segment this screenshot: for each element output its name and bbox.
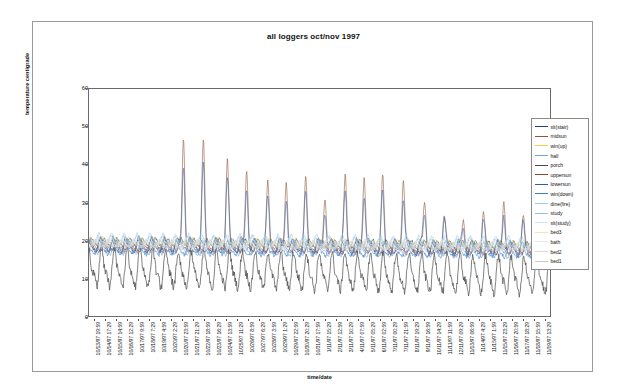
legend-color-swatch xyxy=(535,222,548,223)
x-tick-mark xyxy=(424,319,425,321)
x-tick-mark xyxy=(490,319,491,321)
x-tick-label: 11/18/97 15:59 xyxy=(536,322,541,355)
legend-item-hall[interactable]: hall xyxy=(534,151,586,161)
x-tick-label: 10/27/97 6:29 xyxy=(261,322,266,353)
x-tick-label: 10/31/97 17:59 xyxy=(316,322,321,355)
x-tick-mark xyxy=(292,319,293,321)
legend-item-midsun[interactable]: midsun xyxy=(534,132,586,142)
x-tick-label: 3/11/97 10:29 xyxy=(349,322,354,352)
legend-label: study xyxy=(551,210,563,216)
legend-item-uppersun[interactable]: uppersun xyxy=(534,170,586,180)
legend-color-swatch xyxy=(535,241,548,242)
x-tick-label: 10/25/97 11:29 xyxy=(239,322,244,355)
x-tick-mark xyxy=(325,319,326,321)
legend-label: midsun xyxy=(551,133,567,139)
legend-label: bed2 xyxy=(551,249,562,255)
x-tick-label: 1/11/97 15:29 xyxy=(327,322,332,352)
x-tick-mark xyxy=(116,319,117,321)
x-tick-label: 10/18/97 7:29 xyxy=(151,322,156,353)
legend-label: hall xyxy=(551,153,559,159)
x-tick-mark xyxy=(237,319,238,321)
legend-item-bed1[interactable]: bed1 xyxy=(534,256,586,266)
x-tick-label: 12/11/97 09:29 xyxy=(459,322,464,355)
x-tick-mark xyxy=(94,319,95,321)
x-tick-mark xyxy=(347,319,348,321)
legend-label: sit(stair) xyxy=(551,124,569,130)
legend-item-bed3[interactable]: bed3 xyxy=(534,228,586,238)
x-tick-mark xyxy=(303,319,304,321)
x-tick-label: 10/11/97 14:29 xyxy=(437,322,442,355)
legend-label: lowersun xyxy=(551,181,571,187)
x-tick-mark xyxy=(281,319,282,321)
x-tick-label: 7/11/97 00:29 xyxy=(393,322,398,352)
y-tick-label: 10 xyxy=(54,276,88,282)
legend-color-swatch xyxy=(535,213,548,214)
legend-item-win-up-[interactable]: win(up) xyxy=(534,141,586,151)
legend-color-swatch xyxy=(535,174,548,175)
x-tick-label: 11/11/97 11:59 xyxy=(448,322,453,354)
legend-color-swatch xyxy=(535,136,548,137)
y-tick-label: 60 xyxy=(54,85,88,91)
legend-item-sit-study-[interactable]: sit(study) xyxy=(534,218,586,228)
x-tick-mark xyxy=(457,319,458,321)
x-tick-label: 10/20/97 2:29 xyxy=(173,322,178,353)
legend-item-study[interactable]: study xyxy=(534,208,586,218)
legend-item-win-down-[interactable]: win(down) xyxy=(534,189,586,199)
x-tick-label: 7/11/97 21:59 xyxy=(404,322,409,352)
x-tick-mark xyxy=(501,319,502,321)
plot-area xyxy=(88,88,551,317)
legend-color-swatch xyxy=(535,165,548,166)
y-tick-label: 30 xyxy=(54,200,88,206)
x-tick-label: 10/22/97 18:59 xyxy=(206,322,211,355)
x-tick-mark xyxy=(534,319,535,321)
x-tick-mark xyxy=(182,319,183,321)
legend-item-bath[interactable]: bath xyxy=(534,237,586,247)
x-tick-label: 10/20/97 23:59 xyxy=(184,322,189,355)
legend-color-swatch xyxy=(535,232,548,233)
x-tick-label: 10/26/97 8:59 xyxy=(250,322,255,353)
x-tick-label: 11/13/97 06:59 xyxy=(470,322,475,355)
legend-label: dine(fire) xyxy=(551,201,571,207)
x-tick-mark xyxy=(402,319,403,321)
legend-color-swatch xyxy=(535,126,548,127)
x-tick-mark xyxy=(105,319,106,321)
x-tick-label: 10/23/97 16:29 xyxy=(217,322,222,355)
legend-label: sit(study) xyxy=(551,220,571,226)
legend-color-swatch xyxy=(535,193,548,194)
legend-item-bed2[interactable]: bed2 xyxy=(534,247,586,257)
legend-label: win(up) xyxy=(551,143,567,149)
x-tick-label: 8/11/97 19:29 xyxy=(415,322,420,352)
x-tick-mark xyxy=(523,319,524,321)
legend-color-swatch xyxy=(535,145,548,146)
x-tick-label: 11/16/97 20:59 xyxy=(514,322,519,355)
x-tick-mark xyxy=(435,319,436,321)
x-tick-mark xyxy=(160,319,161,321)
x-tick-label: 5/11/97 05:29 xyxy=(371,322,376,352)
x-tick-mark xyxy=(446,319,447,321)
x-axis-title: time/date xyxy=(88,374,551,380)
y-axis-ticks: 0102030405060 xyxy=(45,88,88,317)
legend-label: bed1 xyxy=(551,258,562,264)
x-tick-label: 10/29/97 22:59 xyxy=(294,322,299,355)
x-tick-mark xyxy=(149,319,150,321)
x-tick-label: 2/11/97 12:59 xyxy=(338,322,343,352)
x-tick-label: 11/17/97 18:29 xyxy=(525,322,530,355)
legend-item-lowersun[interactable]: lowersun xyxy=(534,180,586,190)
x-tick-label: 10/15/97 14:59 xyxy=(118,322,123,355)
x-tick-mark xyxy=(391,319,392,321)
x-tick-mark xyxy=(479,319,480,321)
legend-item-dine-fire-[interactable]: dine(fire) xyxy=(534,199,586,209)
x-tick-label: 11/15/97 1:59 xyxy=(492,322,497,352)
legend-item-porch[interactable]: porch xyxy=(534,160,586,170)
x-tick-label: 10/16/97 12:29 xyxy=(129,322,134,355)
x-tick-mark xyxy=(127,319,128,321)
x-tick-mark xyxy=(358,319,359,321)
x-tick-label: 10/13/97 19:59 xyxy=(96,322,101,355)
x-tick-mark xyxy=(545,319,546,321)
x-tick-mark xyxy=(248,319,249,321)
legend-item-sit-stair-[interactable]: sit(stair) xyxy=(534,122,586,132)
legend-color-swatch xyxy=(535,203,548,204)
chart-frame: all loggers oct/nov 1997 0102030405060 t… xyxy=(32,21,593,372)
x-tick-mark xyxy=(171,319,172,321)
x-tick-label: 10/29/97 1:29 xyxy=(283,322,288,353)
